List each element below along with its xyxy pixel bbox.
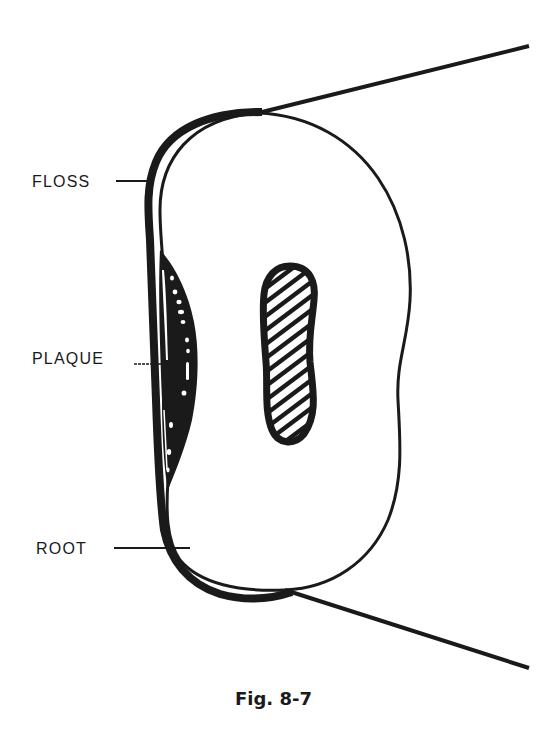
- label-plaque: PLAQUE: [32, 351, 104, 367]
- tooth-root-floss-diagram: [0, 0, 547, 751]
- label-root: ROOT: [36, 541, 87, 557]
- root-canal: [250, 240, 330, 482]
- diagram-figure: FLOSS PLAQUE ROOT Fig. 8-7: [0, 0, 547, 751]
- floss-strand-upper: [258, 46, 529, 113]
- label-floss: FLOSS: [32, 174, 90, 190]
- floss-strand-lower: [285, 590, 529, 668]
- figure-caption: Fig. 8-7: [0, 688, 547, 709]
